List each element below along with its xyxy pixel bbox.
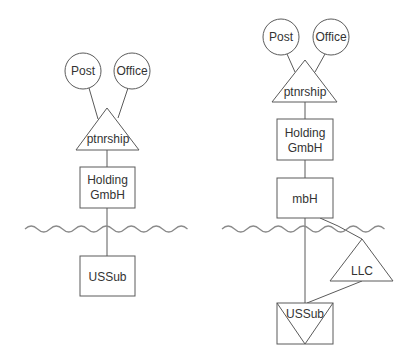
owner-office-label: Office — [116, 64, 147, 78]
llc-triangle-right: LLC — [330, 239, 393, 281]
holding-label-line1: Holding — [285, 126, 326, 140]
connector-mbh-llc-right — [320, 218, 362, 239]
partnership-label: ptnrship — [87, 132, 130, 146]
owner-post-right: Post — [263, 19, 299, 55]
llc-label: LLC — [351, 264, 373, 278]
owner-post-label: Post — [71, 64, 96, 78]
mbh-label: mbH — [292, 192, 317, 206]
border-wave-left — [25, 226, 188, 232]
holding-label-line2: GmbH — [90, 188, 125, 202]
holding-label-line2: GmbH — [288, 141, 323, 155]
left-structure: Post Office ptnrship Holding GmbH USSub — [25, 53, 188, 296]
owner-post-label: Post — [269, 30, 294, 44]
holding-box-right: Holding GmbH — [277, 119, 333, 160]
diagram-canvas: Post Office ptnrship Holding GmbH USSub — [0, 0, 417, 363]
ussub-box-left: USSub — [80, 256, 135, 296]
owner-office-left: Office — [114, 53, 150, 89]
owner-post-left: Post — [65, 53, 101, 89]
border-wave-right — [222, 226, 385, 232]
mbh-box-right: mbH — [277, 178, 333, 218]
ussub-label: USSub — [286, 307, 324, 321]
connector-post-ptnrship-right — [287, 54, 295, 72]
partnership-triangle-right: ptnrship — [272, 60, 337, 102]
connector-llc-ussub-right — [307, 281, 362, 303]
owner-office-label: Office — [315, 30, 346, 44]
partnership-label: ptnrship — [284, 85, 327, 99]
ussub-label: USSub — [88, 270, 126, 284]
right-structure: Post Office ptnrship Holding GmbH mbH LL… — [222, 19, 393, 344]
owner-office-right: Office — [313, 19, 349, 55]
holding-label-line1: Holding — [87, 173, 128, 187]
holding-box-left: Holding GmbH — [80, 167, 135, 208]
connector-office-ptnrship-right — [315, 54, 325, 72]
partnership-triangle-left: ptnrship — [76, 108, 139, 150]
ussub-box-right: USSub — [277, 303, 333, 344]
connector-post-ptnrship-left — [89, 88, 98, 119]
connector-office-ptnrship-left — [118, 88, 128, 118]
